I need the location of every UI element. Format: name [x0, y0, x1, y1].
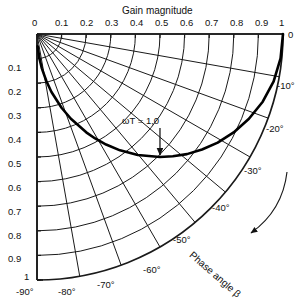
- polar-gain-phase-chart: Gain magnitude 0 0.1 0.2 0.3 0.4 0.5 0.6…: [0, 0, 307, 304]
- plot-canvas: [0, 0, 307, 304]
- phase-direction-arrow: [251, 172, 287, 233]
